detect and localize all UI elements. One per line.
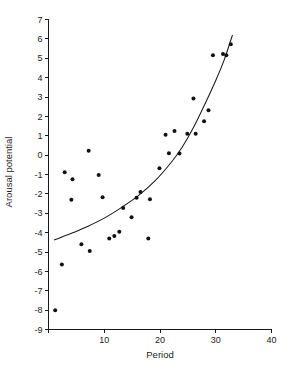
data-point — [164, 133, 168, 137]
x-tick-label: 40 — [266, 335, 276, 345]
x-tick-label: 10 — [99, 335, 109, 345]
y-tick-label: -5 — [34, 247, 42, 257]
y-tick-label: 3 — [37, 92, 42, 102]
data-point — [191, 97, 195, 101]
data-point — [202, 119, 206, 123]
y-tick-label: -4 — [34, 228, 42, 238]
data-point — [173, 129, 177, 133]
y-tick-label: -8 — [34, 305, 42, 315]
data-point — [97, 173, 101, 177]
data-point — [87, 149, 91, 153]
data-point — [53, 308, 57, 312]
data-point — [157, 166, 161, 170]
y-tick-label: 0 — [37, 150, 42, 160]
data-point — [60, 263, 64, 267]
data-point — [138, 190, 142, 194]
scatter-chart-figure: -9-8-7-6-5-4-3-2-101234567 10203040 Peri… — [0, 0, 292, 372]
x-tick-label: 30 — [211, 335, 221, 345]
data-point — [63, 170, 67, 174]
data-point — [148, 197, 152, 201]
y-tick-label: -7 — [34, 286, 42, 296]
data-point — [185, 132, 189, 136]
y-tick-label: -3 — [34, 208, 42, 218]
fitted-trend-curve — [54, 35, 232, 240]
data-point — [70, 177, 74, 181]
data-point — [146, 236, 150, 240]
data-point — [88, 249, 92, 253]
data-point — [107, 236, 111, 240]
data-point — [194, 132, 198, 136]
data-point — [112, 234, 116, 238]
y-tick-label: -1 — [34, 170, 42, 180]
y-axis-title: Arousal potential — [3, 137, 14, 208]
y-tick-label: -9 — [34, 325, 42, 335]
data-point — [229, 42, 233, 46]
data-point — [130, 215, 134, 219]
y-tick-label: 5 — [37, 53, 42, 63]
data-point — [79, 242, 83, 246]
x-axis-title: Period — [146, 349, 173, 360]
y-tick-label: 7 — [37, 15, 42, 25]
data-point — [135, 196, 139, 200]
data-point — [211, 53, 215, 57]
x-axis-tick-labels: 10203040 — [99, 335, 276, 345]
y-tick-label: 1 — [37, 131, 42, 141]
plot-svg: -9-8-7-6-5-4-3-2-101234567 10203040 Peri… — [0, 0, 292, 372]
data-point — [69, 198, 73, 202]
data-point — [224, 53, 228, 57]
data-points-group — [53, 42, 233, 312]
y-tick-label: 6 — [37, 34, 42, 44]
data-point — [101, 195, 105, 199]
y-tick-label: -2 — [34, 189, 42, 199]
y-tick-label: 2 — [37, 112, 42, 122]
y-tick-label: 4 — [37, 73, 42, 83]
data-point — [121, 206, 125, 210]
data-point — [167, 151, 171, 155]
y-tick-label: -6 — [34, 267, 42, 277]
x-tick-label: 20 — [155, 335, 165, 345]
data-point — [178, 152, 182, 156]
data-point — [207, 108, 211, 112]
y-axis-tick-labels: -9-8-7-6-5-4-3-2-101234567 — [34, 15, 42, 335]
data-point — [117, 230, 121, 234]
